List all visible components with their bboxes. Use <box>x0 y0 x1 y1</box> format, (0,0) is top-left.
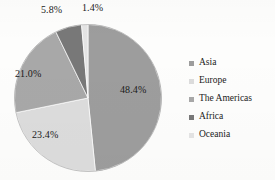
legend-label-oceania: Oceania <box>199 130 230 140</box>
chart-legend: Asia Europe The Americas Africa Oceania <box>189 54 273 144</box>
legend-item-asia[interactable]: Asia <box>189 54 273 72</box>
legend-item-europe[interactable]: Europe <box>189 72 273 90</box>
legend-label-europe: Europe <box>199 76 226 86</box>
slice-value-label-oceania: 1.4% <box>82 2 103 13</box>
legend-label-asia: Asia <box>199 58 216 68</box>
legend-swatch-icon-africa <box>189 115 194 120</box>
legend-swatch-icon-oceania <box>189 133 194 138</box>
slice-value-label-the-americas: 21.0% <box>15 68 41 79</box>
legend-item-the-americas[interactable]: The Americas <box>189 90 273 108</box>
legend-label-africa: Africa <box>199 112 223 122</box>
legend-item-africa[interactable]: Africa <box>189 108 273 126</box>
legend-item-oceania[interactable]: Oceania <box>189 126 273 144</box>
legend-swatch-icon-europe <box>189 79 194 84</box>
pie-chart-plot-area <box>14 24 162 172</box>
slice-value-label-asia: 48.4% <box>120 84 146 95</box>
pie-slice-asia[interactable] <box>88 24 162 171</box>
pie-chart-figure: 48.4% 23.4% 21.0% 5.8% 1.4% Asia Europe … <box>0 0 275 180</box>
slice-value-label-europe: 23.4% <box>32 129 58 140</box>
legend-swatch-icon-the-americas <box>189 97 194 102</box>
legend-swatch-icon-asia <box>189 61 194 66</box>
legend-label-the-americas: The Americas <box>199 94 252 104</box>
pie-slice-group <box>14 24 161 171</box>
slice-value-label-africa: 5.8% <box>41 4 62 15</box>
pie-chart-svg <box>14 24 162 172</box>
